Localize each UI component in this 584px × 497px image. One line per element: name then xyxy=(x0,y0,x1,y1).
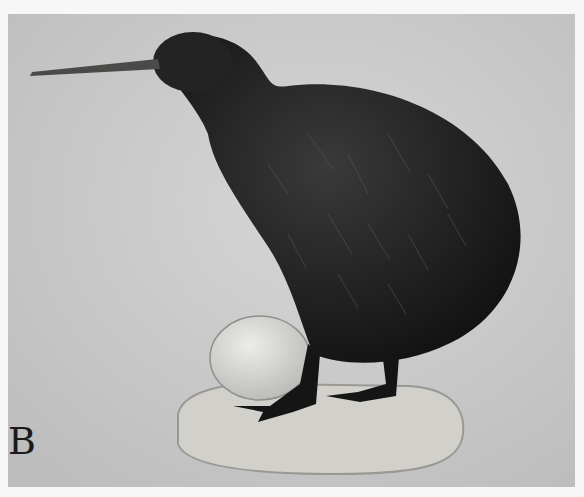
base-stand xyxy=(178,384,463,474)
panel-label: B xyxy=(8,422,36,460)
egg xyxy=(210,316,310,400)
photograph xyxy=(8,14,575,487)
kiwi-illustration xyxy=(8,14,575,487)
figure-page: B xyxy=(0,0,584,497)
